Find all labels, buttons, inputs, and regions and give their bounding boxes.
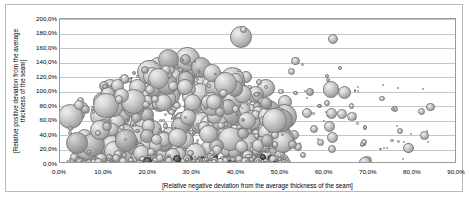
bubble-point: [267, 162, 269, 163]
bubble-point: [168, 128, 186, 146]
y-tick-label: 140,0%: [9, 58, 57, 65]
bubble-point: [324, 121, 335, 132]
bubble-point: [148, 68, 169, 89]
bubble-point: [300, 152, 306, 158]
bubble-point: [383, 147, 385, 149]
bubble-point: [328, 145, 336, 153]
bubble-point: [354, 90, 356, 92]
bubble-point: [82, 157, 84, 159]
bubble-point: [199, 125, 217, 143]
bubble-point: [123, 151, 125, 153]
bubble-point: [203, 162, 206, 163]
bubble-point: [177, 79, 193, 95]
bubble-point: [291, 57, 299, 65]
bubble-point: [136, 75, 138, 77]
bubble-point: [148, 162, 150, 163]
bubble-point: [337, 109, 346, 118]
y-tick-label: 180,0%: [9, 29, 57, 36]
bubble-point: [324, 100, 330, 106]
bubble-point: [206, 159, 208, 161]
y-tick-label: 60,0%: [9, 116, 57, 123]
bubble-point: [357, 86, 359, 88]
bubble-point: [205, 162, 208, 163]
bubble-point: [159, 119, 162, 122]
bubble-point: [194, 60, 196, 62]
bubble-point: [151, 134, 162, 145]
x-tick-label: 90,0%: [436, 168, 469, 175]
bubble-point: [119, 157, 127, 163]
bubble-point: [141, 66, 149, 74]
bubble-point: [260, 162, 263, 163]
bubble-point: [152, 118, 154, 120]
bubble-point: [248, 162, 251, 163]
bubble-point: [427, 141, 429, 143]
plot-area: [59, 18, 456, 163]
bubble-point: [78, 158, 80, 160]
y-tick-label: 40,0%: [9, 131, 57, 138]
y-tick-label: 120,0%: [9, 73, 57, 80]
y-tick-label: 80,0%: [9, 102, 57, 109]
bubble-point: [311, 162, 313, 163]
bubble-point: [192, 131, 196, 135]
bubble-point: [126, 162, 128, 163]
bubble-point: [201, 162, 203, 163]
bubble-point: [235, 162, 238, 163]
bubble-point: [418, 108, 425, 115]
bubble-point: [273, 162, 275, 163]
bubble-point: [229, 163, 231, 164]
bubble-point: [397, 140, 400, 143]
x-tick-label: 50,0%: [260, 168, 300, 175]
bubble-point: [194, 162, 196, 163]
bubble-point: [236, 113, 238, 115]
bubble-point: [184, 94, 200, 110]
bubble-point: [263, 161, 268, 163]
bubble-point: [135, 160, 143, 163]
bubble-point: [256, 79, 262, 85]
bubble-point: [104, 161, 107, 163]
x-tick-label: 30,0%: [171, 168, 211, 175]
bubble-point: [95, 130, 101, 136]
bubble-point: [229, 162, 231, 163]
bubble-point: [240, 26, 247, 33]
bubble-point: [243, 162, 246, 163]
x-tick-label: 0,0%: [39, 168, 79, 175]
bubble-point: [97, 162, 100, 163]
bubble-point: [338, 66, 342, 70]
bubble-point: [261, 134, 273, 146]
bubble-point: [426, 103, 435, 112]
bubble-point: [219, 89, 227, 97]
bubble-point: [91, 162, 93, 163]
bubble-point: [143, 157, 152, 163]
bubble-point: [153, 161, 159, 163]
bubble-point: [168, 109, 174, 115]
bubble-point: [396, 125, 398, 127]
x-tick-label: 20,0%: [127, 168, 167, 175]
bubble-point: [175, 158, 177, 160]
bubble-point: [249, 157, 254, 162]
bubble-point: [232, 105, 240, 113]
bubble-point: [178, 67, 183, 72]
x-tick-label: 40,0%: [215, 168, 255, 175]
bubble-point: [229, 161, 234, 163]
bubble-point: [217, 162, 220, 163]
bubble-point: [116, 162, 119, 163]
bubble-point: [132, 162, 134, 163]
bubble-point: [207, 84, 210, 87]
bubble-point: [338, 86, 351, 99]
bubble-point: [306, 97, 308, 99]
bubble-point: [201, 162, 203, 163]
y-tick-label: 160,0%: [9, 44, 57, 51]
bubble-point: [359, 157, 371, 163]
bubble-point: [133, 141, 136, 144]
bubble-point: [119, 125, 124, 130]
bubble-point: [402, 158, 404, 160]
bubble-point: [250, 162, 252, 163]
bubble-point: [275, 162, 277, 163]
bubble-point: [132, 71, 136, 75]
bubble-point: [153, 162, 157, 163]
x-tick-label: 80,0%: [392, 168, 432, 175]
bubble-point: [237, 128, 248, 139]
bubble-point: [102, 84, 107, 89]
bubble-point: [363, 125, 368, 130]
bubble-point: [326, 108, 337, 119]
